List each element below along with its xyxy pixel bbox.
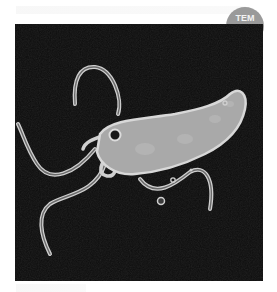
micrograph-image [15, 24, 263, 281]
faint-caption-bottom [16, 284, 86, 292]
faint-caption-top [16, 6, 246, 14]
bacterium-illustration [15, 24, 263, 281]
tem-badge-label: TEM [226, 13, 264, 23]
